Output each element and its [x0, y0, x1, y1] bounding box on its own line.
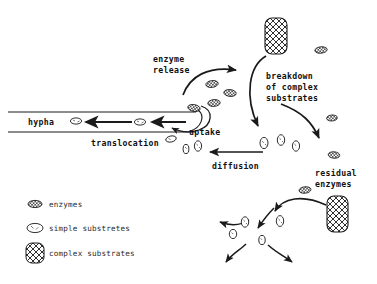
- label-residual-line2: enzymes: [315, 179, 352, 189]
- residual-release-arrow: [281, 104, 319, 138]
- simple-substrate-icon: [260, 137, 268, 148]
- complex-substrate-block-top: [265, 18, 287, 54]
- diagram-svg: enzyme release breakdown of complex subs…: [0, 0, 377, 284]
- simple-substrate-icon: [259, 235, 265, 244]
- complex-substrate-block-bottom: [327, 196, 348, 232]
- simple-substrate-icon: [229, 229, 236, 238]
- simple-substrate-icon: [292, 141, 299, 151]
- label-uptake: uptake: [189, 127, 220, 137]
- simple-substrate-icon: [277, 135, 284, 146]
- residual-enzymes-arrow: [275, 199, 326, 211]
- legend-label-complex-substrates: complex substrates: [49, 249, 135, 258]
- legend-item-simple-substrates: simple substretes: [27, 223, 130, 233]
- simple-substrate-icon: [165, 135, 177, 143]
- enzyme-icon: [205, 80, 218, 88]
- simple-substrate-ellipse-icon: [27, 223, 43, 232]
- enzyme-ellipse-icon: [28, 200, 42, 207]
- enzyme-icon: [187, 104, 200, 113]
- diagram-canvas: enzyme release breakdown of complex subs…: [0, 0, 377, 284]
- enzyme-icon: [328, 151, 340, 158]
- simple-substrate-icon: [183, 144, 189, 153]
- label-diffusion: diffusion: [212, 161, 259, 171]
- simple-substrate-icon: [194, 141, 201, 151]
- enzyme-icon: [223, 89, 236, 97]
- legend-item-complex-substrates: complex substrates: [26, 243, 135, 263]
- label-breakdown-line1: breakdown: [266, 71, 313, 81]
- label-breakdown-line3: substrates: [266, 93, 318, 103]
- enzyme-icon: [314, 46, 327, 54]
- breakdown-arrow: [250, 56, 266, 126]
- label-breakdown-line2: of complex: [266, 82, 318, 92]
- label-enzyme-release-line1: enzyme: [153, 54, 184, 64]
- simple-substrate-icon: [70, 118, 81, 124]
- legend-item-enzymes: enzymes: [28, 200, 82, 209]
- simple-substrate-icon: [276, 216, 283, 227]
- enzyme-icon: [326, 115, 337, 122]
- label-translocation: translocation: [91, 138, 159, 148]
- simple-substrate-icon: [241, 217, 248, 227]
- legend-label-simple-substrates: simple substretes: [49, 224, 130, 233]
- label-hypha: hypha: [28, 117, 54, 127]
- legend: enzymes simple substretes complex substr…: [26, 200, 135, 263]
- legend-label-enzymes: enzymes: [49, 200, 82, 209]
- complex-substrate-block-icon: [26, 243, 44, 263]
- label-residual-line1: residual: [315, 168, 357, 178]
- enzyme-icon: [299, 186, 312, 194]
- enzyme-icon: [208, 99, 221, 107]
- simple-substrate-icon: [134, 119, 145, 125]
- label-enzyme-release-line2: release: [153, 65, 190, 75]
